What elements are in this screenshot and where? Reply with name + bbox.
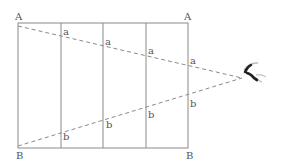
mark-a-4: a <box>190 56 196 66</box>
corner-label-bottom-left: B <box>16 151 23 161</box>
corner-label-top-left: A <box>15 12 22 22</box>
mark-a-3: a <box>148 46 154 56</box>
mark-a-1: a <box>63 27 69 37</box>
mark-b-2: b <box>106 120 112 130</box>
sight-line-top <box>18 26 242 78</box>
sight-line-bottom <box>18 78 242 146</box>
mark-b-3: b <box>148 110 154 120</box>
corner-label-top-right: A <box>184 12 191 22</box>
mark-b-1: b <box>63 132 69 142</box>
eye-icon <box>244 63 266 82</box>
mark-b-4: b <box>190 99 196 109</box>
corner-label-bottom-right: B <box>186 151 193 161</box>
mark-a-2: a <box>105 37 111 47</box>
perspective-diagram <box>0 0 288 166</box>
